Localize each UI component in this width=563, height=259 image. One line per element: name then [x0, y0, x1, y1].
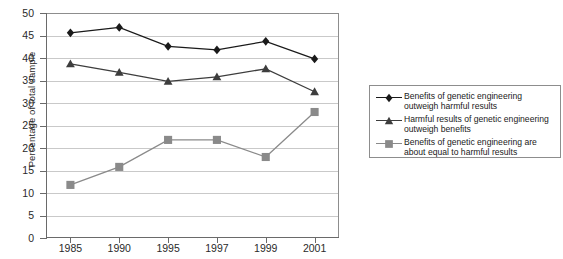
series-square — [66, 108, 318, 189]
data-point-triangle — [310, 87, 319, 95]
legend-label: Benefits of genetic engineering outweigh… — [404, 91, 522, 112]
y-tick-label: 30 — [8, 98, 34, 109]
data-series-layer — [46, 13, 339, 238]
diamond-icon — [376, 92, 402, 104]
data-point-square — [164, 136, 172, 144]
chart-legend: Benefits of genetic engineering outweigh… — [369, 85, 561, 158]
x-tick-label: 1985 — [42, 243, 98, 254]
square-icon — [376, 138, 402, 150]
x-tick-label: 1999 — [238, 243, 294, 254]
y-tick-label: 40 — [8, 53, 34, 64]
data-point-diamond — [262, 37, 269, 46]
x-tick-label: 1995 — [140, 243, 196, 254]
y-tick-label: 20 — [8, 143, 34, 154]
data-point-square — [115, 163, 123, 171]
legend-item-diamond[interactable]: Benefits of genetic engineering outweigh… — [376, 91, 522, 112]
legend-item-square[interactable]: Benefits of genetic engineering are abou… — [376, 137, 537, 158]
legend-item-triangle[interactable]: Harmful results of genetic engineering o… — [376, 114, 549, 135]
legend-label: Benefits of genetic engineering are abou… — [404, 137, 537, 158]
legend-square-glyph — [384, 139, 394, 149]
series-triangle — [66, 59, 319, 95]
plot-area — [46, 13, 339, 238]
legend-diamond-glyph — [384, 93, 394, 103]
y-tick-label: 35 — [8, 75, 34, 86]
data-point-triangle — [66, 59, 75, 67]
data-point-diamond — [164, 42, 171, 51]
data-point-square — [66, 181, 74, 189]
data-point-square — [311, 108, 319, 116]
triangle-icon — [376, 115, 402, 127]
data-point-triangle — [261, 64, 270, 72]
y-tick-label: 45 — [8, 30, 34, 41]
data-point-diamond — [116, 23, 123, 32]
legend-label: Harmful results of genetic engineering o… — [404, 114, 549, 135]
data-point-square — [262, 153, 270, 161]
series-diamond — [67, 23, 318, 63]
series-line — [70, 27, 314, 59]
data-point-diamond — [311, 55, 318, 64]
series-line — [70, 112, 314, 185]
data-point-diamond — [213, 46, 220, 55]
legend-triangle-glyph — [384, 116, 394, 126]
chart-figure: Percentage of total sample 0510152025303… — [0, 0, 563, 259]
y-tick-label: 5 — [8, 210, 34, 221]
x-tick-label: 1997 — [189, 243, 245, 254]
x-tick-label: 2001 — [287, 243, 343, 254]
x-tick-label: 1990 — [91, 243, 147, 254]
y-tick-label: 0 — [8, 233, 34, 244]
series-line — [70, 64, 314, 92]
data-point-diamond — [67, 28, 74, 37]
y-tick-label: 25 — [8, 120, 34, 131]
y-tick-label: 50 — [8, 8, 34, 19]
y-tick-label: 10 — [8, 188, 34, 199]
y-tick-label: 15 — [8, 165, 34, 176]
data-point-square — [213, 136, 221, 144]
